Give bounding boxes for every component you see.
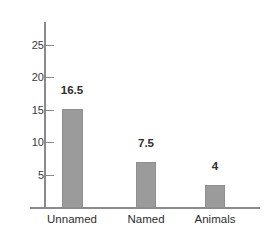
- y-tick-label-25: 25: [4, 40, 44, 51]
- y-tick-label-5: 5: [4, 170, 44, 181]
- bar-value-animals: 4: [188, 160, 242, 172]
- y-tick-mark-5: [46, 175, 54, 176]
- y-tick-label-10: 10: [4, 137, 44, 148]
- y-tick-mark-15: [46, 110, 54, 111]
- y-tick-mark-10: [46, 142, 54, 143]
- x-category-label-unnamed: Unnamed: [32, 213, 112, 226]
- bar-value-unnamed: 16.5: [45, 84, 99, 96]
- bar-animals[interactable]: [205, 185, 225, 208]
- y-tick-mark-20: [46, 77, 54, 78]
- bar-value-named: 7.5: [119, 137, 173, 149]
- bar-chart: 5 10 15 20 25 16.5 7.5 4 Unnamed Named A…: [0, 0, 268, 241]
- bar-named[interactable]: [136, 162, 156, 208]
- y-tick-mark-25: [46, 45, 54, 46]
- y-tick-label-15: 15: [4, 105, 44, 116]
- y-axis-line: [44, 22, 46, 209]
- x-category-label-animals: Animals: [175, 213, 255, 226]
- bar-unnamed[interactable]: [62, 109, 83, 208]
- y-tick-label-20: 20: [4, 72, 44, 83]
- x-category-label-named: Named: [106, 213, 186, 226]
